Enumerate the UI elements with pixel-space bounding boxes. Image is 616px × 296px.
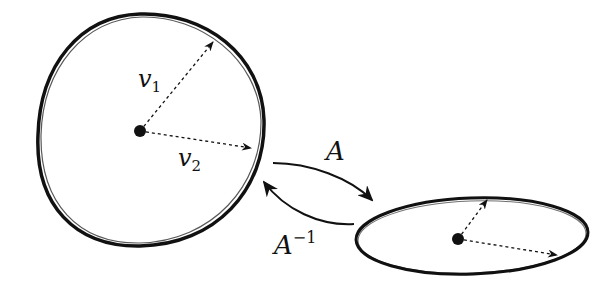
label-A: A <box>324 136 345 166</box>
ellipse-vector-short-arrow <box>458 200 487 239</box>
ellipse-shape <box>355 194 590 278</box>
vector-v2-arrow <box>140 131 251 148</box>
label-A-inverse: A−1 <box>272 228 316 260</box>
map-A-arrow <box>273 163 372 200</box>
map-A-inverse-arrow <box>264 182 354 224</box>
label-v1: v1 <box>138 65 161 96</box>
circle-shape <box>38 14 264 246</box>
ellipse-vector-long-arrow <box>458 239 557 255</box>
linear-map-diagram: v1 v2 A A−1 <box>0 0 616 296</box>
label-v2: v2 <box>178 144 201 175</box>
